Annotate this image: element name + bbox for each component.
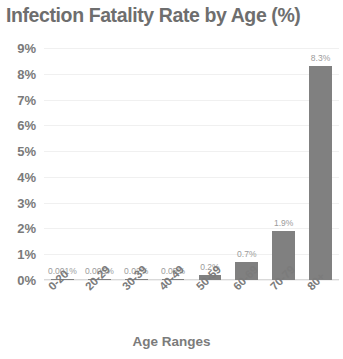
y-axis-tick-label: 2% bbox=[0, 221, 36, 236]
bar-slot[interactable]: 0.02% bbox=[125, 48, 148, 280]
bar[interactable] bbox=[309, 66, 332, 280]
chart-title: Infection Fatality Rate by Age (%) bbox=[6, 4, 343, 27]
bar-slot[interactable]: 1.9% bbox=[272, 48, 295, 280]
plot-area: 0.001%0.005%0.02%0.05%0.2%0.7%1.9%8.3% bbox=[44, 48, 339, 280]
bar-slot[interactable]: 0.2% bbox=[199, 48, 222, 280]
bar-slot[interactable]: 0.05% bbox=[162, 48, 185, 280]
y-axis-tick-label: 9% bbox=[0, 41, 36, 56]
bar-slot[interactable]: 8.3% bbox=[309, 48, 332, 280]
bar-slot[interactable]: 0.001% bbox=[51, 48, 74, 280]
bar-slot[interactable]: 0.005% bbox=[88, 48, 111, 280]
x-axis-title: Age Ranges bbox=[0, 334, 343, 349]
y-axis-tick-label: 1% bbox=[0, 247, 36, 262]
y-axis-tick-label: 7% bbox=[0, 92, 36, 107]
y-axis-tick-label: 8% bbox=[0, 66, 36, 81]
y-axis-tick-label: 5% bbox=[0, 144, 36, 159]
y-axis-tick-label: 4% bbox=[0, 169, 36, 184]
y-axis-tick-label: 6% bbox=[0, 118, 36, 133]
bar-chart: Infection Fatality Rate by Age (%) 0%1%2… bbox=[0, 0, 343, 359]
bar-slot[interactable]: 0.7% bbox=[235, 48, 258, 280]
y-axis-tick-label: 3% bbox=[0, 195, 36, 210]
bar-value-label: 8.3% bbox=[286, 53, 343, 63]
